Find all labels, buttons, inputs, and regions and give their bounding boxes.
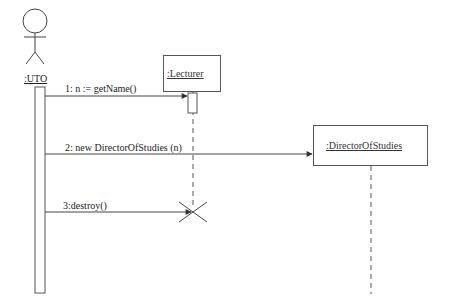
sequence-diagram: :UTO :Lecturer :DirectorOfStudies 1: n :… (0, 0, 449, 305)
dos-object-label: :DirectorOfStudies (326, 140, 402, 151)
message-3-label: 3:destroy() (63, 200, 107, 211)
dos-object-box: :DirectorOfStudies (313, 125, 428, 166)
message-2-label: 2: new DirectorOfStudies (n) (65, 142, 182, 153)
uto-activation-bar (35, 87, 45, 293)
message-1-label: 1: n := getName() (65, 83, 136, 94)
lecturer-object-box: :Lecturer (163, 55, 221, 92)
actor-stick-figure-icon (23, 9, 47, 64)
lecturer-activation-bar (188, 93, 197, 113)
lecturer-object-label: :Lecturer (167, 68, 204, 79)
actor-label-uto: :UTO (24, 73, 47, 84)
